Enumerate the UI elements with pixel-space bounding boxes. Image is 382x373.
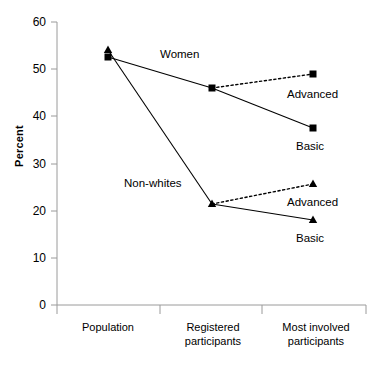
x-tick-label-most-involved-line2: participants xyxy=(268,334,364,348)
annotation-women-advanced: Advanced xyxy=(287,88,338,100)
y-tick-label-60: 60 xyxy=(20,15,46,29)
y-tick-label-0: 0 xyxy=(20,298,46,312)
annotation-nonwhites: Non-whites xyxy=(124,177,182,189)
x-tick-label-population: Population xyxy=(62,320,154,334)
annotation-women: Women xyxy=(160,48,199,60)
y-tick-label-10: 10 xyxy=(20,251,46,265)
y-tick-label-40: 40 xyxy=(20,109,46,123)
annotation-women-basic: Basic xyxy=(296,140,324,152)
women-advanced-line xyxy=(212,74,313,88)
y-tick-label-20: 20 xyxy=(20,204,46,218)
y-tick-label-50: 50 xyxy=(20,62,46,76)
x-tick-label-most-involved-line1: Most involved xyxy=(268,320,364,334)
annotation-nonwhites-basic: Basic xyxy=(296,232,324,244)
marker-women-population xyxy=(105,54,112,61)
marker-nonwhites-population xyxy=(104,46,112,54)
marker-women-advanced-most-involved xyxy=(310,71,317,78)
y-tick-label-30: 30 xyxy=(20,157,46,171)
x-tick-label-registered-line1: Registered xyxy=(167,320,259,334)
marker-women-registered xyxy=(209,85,216,92)
annotation-nonwhites-advanced: Advanced xyxy=(287,196,338,208)
marker-nonwhites-advanced-most-involved xyxy=(309,180,317,188)
chart-container: Percent 60 50 40 30 20 10 0 Population R… xyxy=(0,0,382,373)
marker-women-basic-most-involved xyxy=(310,125,317,132)
x-axis-ticks xyxy=(57,305,366,314)
y-axis-ticks xyxy=(51,22,57,305)
x-tick-label-registered-line2: participants xyxy=(167,334,259,348)
